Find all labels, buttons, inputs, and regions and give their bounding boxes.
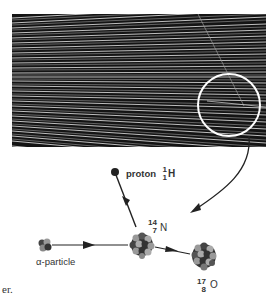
highlight-circle	[198, 74, 260, 136]
nitrogen-isotope-numbers: 14 7	[145, 219, 157, 235]
alpha-nucleus-icon	[39, 239, 52, 252]
nitrogen-symbol: N	[160, 222, 167, 233]
proton-isotope-numbers: 1 1	[159, 166, 167, 182]
proton-label: proton	[126, 168, 156, 179]
alpha-particle-label: α-particle	[36, 256, 75, 267]
curved-arrowhead-icon	[190, 203, 201, 213]
diagram-overlay	[0, 0, 278, 299]
oxygen-symbol: O	[210, 279, 218, 290]
proton-symbol: H	[168, 168, 175, 179]
alpha-arrow-icon	[83, 241, 95, 249]
nitrogen-nucleus-icon	[130, 233, 155, 260]
proton-atomic-number: 1	[159, 174, 167, 182]
oxygen-arrow-icon	[165, 246, 178, 252]
oxygen-atomic-number: 8	[194, 286, 206, 294]
proton-arrow-icon	[122, 196, 130, 206]
oxygen-isotope-numbers: 17 8	[194, 278, 206, 294]
oxygen-nucleus-icon	[192, 243, 217, 271]
curved-arrow	[193, 136, 249, 211]
nitrogen-atomic-number: 7	[145, 227, 157, 235]
caption-fragment: er.	[2, 283, 13, 295]
proton-dot-icon	[111, 168, 119, 176]
